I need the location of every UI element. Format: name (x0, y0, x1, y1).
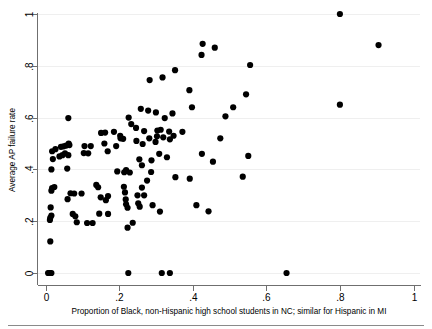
scatter-point (137, 204, 143, 210)
scatter-point (105, 193, 111, 199)
scatter-point (159, 270, 165, 276)
scatter-point (160, 134, 166, 140)
scatter-point (193, 202, 199, 208)
scatter-point (140, 141, 146, 147)
scatter-point (139, 162, 145, 168)
scatter-point (210, 159, 216, 165)
scatter-point (199, 151, 205, 157)
scatter-point (187, 176, 193, 182)
scatter-point (148, 169, 154, 175)
x-tick-label: .4 (189, 292, 198, 303)
scatter-point (156, 151, 162, 157)
scatter-point (172, 174, 178, 180)
scatter-point (217, 135, 223, 141)
x-axis-title: Proportion of Black, non-Hispanic high s… (72, 307, 387, 316)
scatter-point (101, 140, 107, 146)
scatter-point (111, 129, 117, 135)
scatter-point (96, 211, 102, 217)
scatter-point (48, 212, 54, 218)
scatter-point (113, 143, 119, 149)
scatter-point (145, 108, 151, 114)
scatter-point (64, 196, 70, 202)
scatter-point (125, 270, 131, 276)
scatter-point (205, 208, 211, 214)
scatter-point (124, 225, 130, 231)
scatter-point (85, 150, 91, 156)
scatter-point (157, 209, 163, 215)
scatter-point (78, 190, 84, 196)
scatter-point (124, 205, 130, 211)
scatter-point (164, 154, 170, 160)
scatter-point (189, 104, 195, 110)
scatter-point (186, 87, 192, 93)
gridlines-group (38, 15, 420, 274)
scatter-point (141, 192, 147, 198)
scatter-point (141, 128, 147, 134)
scatter-point (169, 110, 175, 116)
y-axis-ticks-group: 0.2.4.6.81 (24, 11, 38, 276)
scatter-point (95, 184, 101, 190)
scatter-point (65, 115, 71, 121)
scatter-point (139, 184, 145, 190)
scatter-point (200, 41, 206, 47)
scatter-point (128, 121, 134, 127)
scatter-point (65, 152, 71, 158)
scatter-point (148, 157, 154, 163)
scatter-point (127, 169, 133, 175)
scatter-point (134, 192, 140, 198)
scatter-point (245, 153, 251, 159)
scatter-point (167, 270, 173, 276)
scatter-point (48, 204, 54, 210)
scatter-point (121, 184, 127, 190)
scatter-point (117, 133, 123, 139)
scatter-point (105, 148, 111, 154)
scatter-point (126, 115, 132, 121)
scatter-point (133, 125, 139, 131)
x-tick-label: 0 (44, 292, 50, 303)
scatter-point (71, 190, 77, 196)
scatter-point (136, 156, 142, 162)
y-axis-title: Average AP failure rate (8, 108, 17, 192)
scatter-point (130, 220, 136, 226)
x-axis-ticks-group: 0.2.4.6.81 (44, 286, 418, 304)
scatter-point (88, 143, 94, 149)
scatter-point (72, 213, 78, 219)
scatter-point (102, 130, 108, 136)
scatter-point (149, 202, 155, 208)
y-tick-label: .2 (24, 217, 35, 226)
scatter-point (162, 115, 168, 121)
scatter-point (172, 67, 178, 73)
scatter-point (138, 106, 144, 112)
scatter-point (64, 166, 70, 172)
scatter-point (159, 74, 165, 80)
scatter-point (51, 184, 57, 190)
y-tick-label: 0 (24, 270, 35, 276)
scatter-point (240, 174, 246, 180)
scatter-point (230, 104, 236, 110)
scatter-point (66, 142, 72, 148)
scatter-point (105, 211, 111, 217)
y-tick-label: .8 (24, 62, 35, 71)
plot-canvas: 0.2.4.6.81 0.2.4.6.81 Average AP failure… (0, 0, 432, 329)
scatter-point (114, 168, 120, 174)
y-tick-label: .6 (24, 114, 35, 123)
y-tick-label: 1 (24, 11, 35, 17)
y-tick-label: .4 (24, 165, 35, 174)
scatter-point (133, 138, 139, 144)
scatter-point (50, 156, 56, 162)
scatter-point (337, 11, 343, 17)
scatter-point (283, 270, 289, 276)
scatter-point (170, 133, 176, 139)
scatter-point (146, 135, 152, 141)
scatter-point (198, 52, 204, 58)
scatter-point (144, 177, 150, 183)
scatter-point (52, 146, 58, 152)
scatter-point (154, 133, 160, 139)
scatter-point (212, 45, 218, 51)
scatter-point (243, 91, 249, 97)
scatter-point (375, 42, 381, 48)
scatter-point (48, 270, 54, 276)
scatter-point (81, 143, 87, 149)
scatter-plot-figure: 0.2.4.6.81 0.2.4.6.81 Average AP failure… (0, 0, 432, 329)
scatter-point (90, 220, 96, 226)
